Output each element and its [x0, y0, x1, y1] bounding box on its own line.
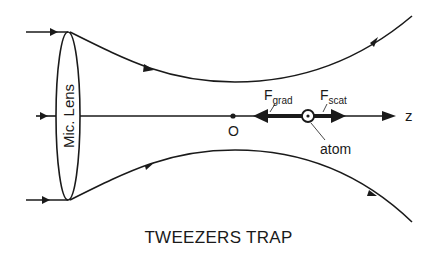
force-scat-arrowhead-icon — [331, 109, 346, 123]
arrowhead-icon — [50, 28, 58, 36]
beam-lower-envelope — [70, 150, 412, 222]
axis-arrowhead-icon — [382, 111, 396, 121]
force-grad-label: Fgrad — [264, 87, 293, 106]
tweezers-trap-diagram: Mic. Lens z O Fgrad Fscat atom — [0, 0, 437, 264]
beam-upper-envelope — [70, 16, 412, 82]
force-grad-arrowhead-icon — [253, 109, 268, 123]
incoming-ray-bottom — [26, 196, 68, 204]
atom-label: atom — [320, 141, 351, 157]
focus-point — [230, 113, 235, 118]
axis-label: z — [405, 107, 413, 124]
diagram-title: TWEEZERS TRAP — [0, 228, 437, 248]
arrowhead-icon — [40, 112, 48, 120]
arrowhead-icon — [42, 196, 50, 204]
force-scat-label: Fscat — [320, 87, 347, 106]
atom-leader-line — [311, 123, 325, 140]
incoming-ray-top — [26, 28, 68, 36]
origin-label: O — [228, 123, 239, 139]
lens-label: Mic. Lens — [60, 84, 77, 148]
incoming-ray-middle — [36, 112, 56, 120]
